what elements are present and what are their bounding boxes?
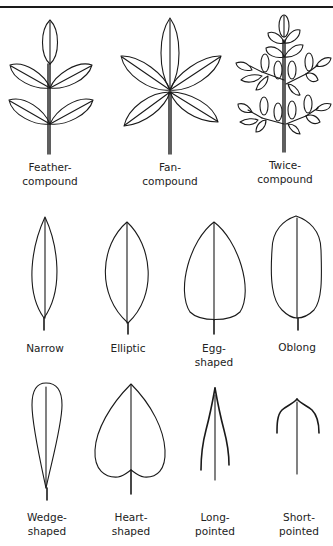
label-line: Twice-: [240, 158, 330, 172]
label-line: pointed: [254, 524, 333, 538]
label-line: Feather-: [5, 160, 95, 174]
label-line: Short-: [254, 510, 333, 524]
label-line: compound: [125, 174, 215, 188]
label-fan-compound: Fan- compound: [125, 160, 215, 188]
label-line: Long-: [170, 510, 260, 524]
elliptic-leaf-icon: [105, 222, 148, 334]
label-line: Elliptic: [83, 341, 173, 355]
label-oblong: Oblong: [252, 340, 333, 354]
label-line: Oblong: [252, 340, 333, 354]
fan-compound-leaf-icon: [121, 18, 221, 154]
short-pointed-leaf-icon: [277, 399, 319, 474]
label-elliptic: Elliptic: [83, 341, 173, 355]
label-line: compound: [5, 174, 95, 188]
label-line: Narrow: [0, 341, 90, 355]
label-line: Fan-: [125, 160, 215, 174]
label-twice-compound: Twice- compound: [240, 158, 330, 186]
label-narrow: Narrow: [0, 341, 90, 355]
long-pointed-leaf-icon: [201, 388, 229, 480]
twice-compound-leaf-icon: [236, 15, 331, 152]
label-line: Heart-: [86, 510, 176, 524]
label-line: Egg-: [169, 341, 259, 355]
label-long-pointed: Long- pointed: [170, 510, 260, 538]
heart-shaped-leaf-icon: [95, 384, 165, 494]
egg-shaped-leaf-icon: [184, 222, 245, 334]
feather-compound-leaf-icon: [9, 20, 93, 154]
label-line: compound: [240, 172, 330, 186]
label-egg-shaped: Egg- shaped: [169, 341, 259, 369]
label-line: shaped: [86, 524, 176, 538]
label-line: shaped: [169, 355, 259, 369]
wedge-shaped-leaf-icon: [32, 383, 62, 500]
leaf-illustrations: [0, 0, 333, 546]
label-short-pointed: Short- pointed: [254, 510, 333, 538]
label-wedge-shaped: Wedge- shaped: [2, 510, 92, 538]
oblong-leaf-icon: [271, 216, 321, 330]
label-line: pointed: [170, 524, 260, 538]
narrow-leaf-icon: [32, 217, 57, 330]
label-feather-compound: Feather- compound: [5, 160, 95, 188]
label-line: shaped: [2, 524, 92, 538]
label-line: Wedge-: [2, 510, 92, 524]
label-heart-shaped: Heart- shaped: [86, 510, 176, 538]
